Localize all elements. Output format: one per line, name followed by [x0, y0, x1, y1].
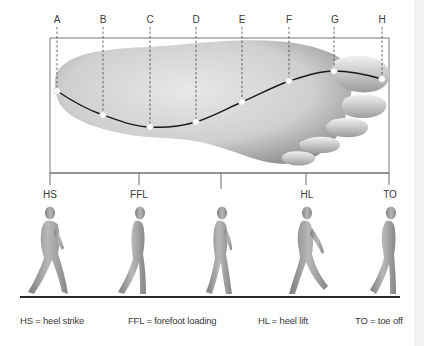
point-label-e: E: [239, 14, 246, 25]
walking-figure-toe-off: [370, 207, 396, 295]
point-label-f: F: [286, 14, 292, 25]
point-label-c: C: [146, 14, 153, 25]
legend-heel-lift: HL = heel lift: [258, 315, 308, 326]
legend-toe-off: TO = toe off: [355, 315, 403, 326]
point-label-g: G: [331, 14, 339, 25]
foot-sole-illustration: [55, 40, 390, 165]
legend-heel-strike: HS = heel strike: [20, 315, 84, 326]
gait-phase-bracket: [50, 173, 389, 189]
point-label-d: D: [192, 14, 199, 25]
point-label-h: H: [378, 14, 385, 25]
gait-diagram: [0, 0, 424, 346]
walking-figure-midstance: [206, 207, 232, 295]
walking-figure-heel-lift: [289, 207, 328, 295]
point-label-b: B: [100, 14, 107, 25]
phase-label-forefoot-loading: FFL: [130, 189, 148, 200]
walking-figure-forefoot-loading: [118, 207, 146, 295]
phase-label-heel-lift: HL: [301, 189, 314, 200]
point-label-a: A: [54, 14, 61, 25]
phase-label-toe-off: TO: [383, 189, 397, 200]
walking-figure-heel-strike: [28, 207, 68, 295]
phase-label-heel-strike: HS: [43, 189, 57, 200]
legend-forefoot-loading: FFL = forefoot loading: [128, 315, 216, 326]
